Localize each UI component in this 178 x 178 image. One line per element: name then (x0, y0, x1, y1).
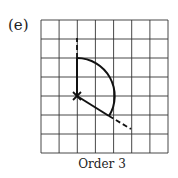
figure-caption: Order 3 (0, 157, 178, 171)
rotation-diagram (0, 0, 178, 178)
grid (41, 20, 168, 153)
